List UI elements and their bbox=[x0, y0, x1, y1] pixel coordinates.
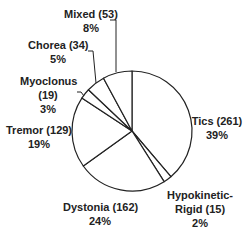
label-dystonia-pct: 24% bbox=[63, 214, 137, 228]
leader-myoclonus bbox=[77, 92, 84, 96]
label-tics: Tics (261) 39% bbox=[191, 114, 243, 142]
label-mixed-name: Mixed (53) bbox=[62, 7, 120, 21]
label-chorea-pct: 5% bbox=[28, 52, 88, 66]
label-tics-pct: 39% bbox=[191, 128, 243, 142]
label-tremor-name: Tremor (129) bbox=[6, 123, 72, 137]
label-hypo-name: Hypokinetic- bbox=[164, 188, 236, 202]
leader-chorea bbox=[88, 51, 96, 83]
label-mixed-pct: 8% bbox=[62, 21, 120, 35]
label-tremor: Tremor (129) 19% bbox=[6, 123, 72, 151]
label-chorea: Chorea (34) 5% bbox=[28, 38, 88, 66]
label-hypo-pct: 2% bbox=[164, 216, 236, 230]
label-hypo-count: Rigid (15) bbox=[164, 202, 236, 216]
label-dystonia-name: Dystonia (162) bbox=[63, 200, 137, 214]
label-myoclonus-count: (19) bbox=[20, 88, 76, 102]
label-tremor-pct: 19% bbox=[6, 137, 72, 151]
label-myoclonus: Myoclonus (19) 3% bbox=[20, 74, 76, 116]
label-myoclonus-name: Myoclonus bbox=[20, 74, 76, 88]
pie-slices bbox=[72, 71, 192, 191]
label-myoclonus-pct: 3% bbox=[20, 102, 76, 116]
label-dystonia: Dystonia (162) 24% bbox=[63, 200, 137, 228]
label-hypokinetic-rigid: Hypokinetic- Rigid (15) 2% bbox=[164, 188, 236, 230]
label-tics-name: Tics (261) bbox=[191, 114, 243, 128]
label-mixed: Mixed (53) 8% bbox=[62, 7, 120, 35]
label-chorea-name: Chorea (34) bbox=[28, 38, 88, 52]
